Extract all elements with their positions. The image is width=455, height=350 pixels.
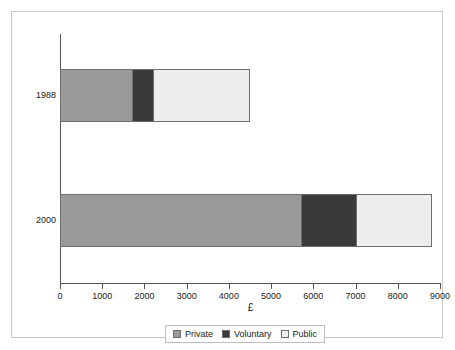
- x-axis-line: [60, 283, 441, 284]
- y-category-label: 1988: [16, 90, 56, 100]
- legend-item-private[interactable]: Private: [173, 329, 213, 339]
- legend-swatch-icon: [281, 330, 289, 338]
- x-tick-label: 7000: [336, 291, 376, 301]
- bar-segment-voluntary: [132, 69, 153, 122]
- x-tick: [271, 284, 272, 289]
- bar-segment-voluntary: [301, 194, 356, 247]
- bar-stack-1988: [12, 69, 444, 122]
- legend-label: Private: [185, 329, 213, 339]
- x-tick-label: 2000: [124, 291, 164, 301]
- bar-segment-public: [356, 194, 432, 247]
- x-tick-label: 1000: [82, 291, 122, 301]
- x-tick: [313, 284, 314, 289]
- bar-stack-2000: [12, 194, 444, 247]
- x-tick-label: 0: [40, 291, 80, 301]
- legend-label: Public: [293, 329, 318, 339]
- legend-swatch-icon: [222, 330, 230, 338]
- x-tick-label: 4000: [209, 291, 249, 301]
- x-tick: [398, 284, 399, 289]
- bar-segment-private: [60, 69, 132, 122]
- x-tick: [144, 284, 145, 289]
- x-tick-label: 6000: [293, 291, 333, 301]
- x-tick-label: 8000: [378, 291, 418, 301]
- x-tick: [229, 284, 230, 289]
- legend-item-public[interactable]: Public: [281, 329, 318, 339]
- chart-frame: 0100020003000400050006000700080009000 £ …: [11, 11, 443, 338]
- bar-segment-private: [60, 194, 301, 247]
- legend-label: Voluntary: [234, 329, 272, 339]
- legend-swatch-icon: [173, 330, 181, 338]
- x-tick: [440, 284, 441, 289]
- x-tick: [356, 284, 357, 289]
- y-category-label: 2000: [16, 215, 56, 225]
- x-tick-label: 9000: [420, 291, 455, 301]
- x-tick: [60, 284, 61, 289]
- x-axis-title: £: [60, 302, 441, 313]
- x-tick-label: 5000: [251, 291, 291, 301]
- x-tick: [187, 284, 188, 289]
- chart-legend: PrivateVoluntaryPublic: [165, 325, 325, 343]
- x-tick: [102, 284, 103, 289]
- bar-segment-public: [153, 69, 250, 122]
- legend-item-voluntary[interactable]: Voluntary: [222, 329, 272, 339]
- x-tick-label: 3000: [167, 291, 207, 301]
